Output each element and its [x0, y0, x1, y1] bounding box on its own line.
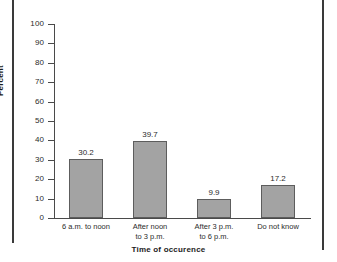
x-axis-line	[54, 218, 311, 219]
figure-panel: 1009080706050403020100 Percent 30.239.79…	[0, 0, 337, 262]
bar	[69, 159, 103, 218]
bar	[197, 199, 231, 218]
y-axis-tick-label: 10	[4, 195, 44, 203]
y-axis-tick-label: 90	[4, 39, 44, 47]
bar-value-label: 30.2	[66, 148, 106, 157]
x-axis-category-label: 6 a.m. to noon	[54, 222, 118, 232]
y-axis-title: Percent	[0, 65, 5, 96]
y-axis-tick-label: 60	[4, 98, 44, 106]
y-axis-tick-label: 80	[4, 59, 44, 67]
bar	[261, 185, 295, 218]
y-axis-tick-label: 40	[4, 136, 44, 144]
y-axis-tick-label: 0	[4, 214, 44, 222]
y-axis-tick-label: 50	[4, 117, 44, 125]
x-axis-category-label: After 3 p.m. to 6 p.m.	[182, 222, 246, 242]
bar-value-label: 9.9	[194, 188, 234, 197]
page-frame-rule-right	[322, 0, 324, 250]
y-axis-tick-label: 100	[4, 20, 44, 28]
y-axis-tick-label: 30	[4, 156, 44, 164]
x-axis-title: Time of occurence	[0, 245, 337, 254]
y-axis-tick-label: 70	[4, 78, 44, 86]
x-axis-category-label: Do not know	[246, 222, 310, 232]
bar	[133, 141, 167, 218]
plot-area	[54, 24, 310, 218]
bar-value-label: 39.7	[130, 130, 170, 139]
y-axis-tick-label: 20	[4, 175, 44, 183]
bar-value-label: 17.2	[258, 174, 298, 183]
x-axis-category-label: After noon to 3 p.m.	[118, 222, 182, 242]
y-axis-tick	[48, 218, 54, 219]
